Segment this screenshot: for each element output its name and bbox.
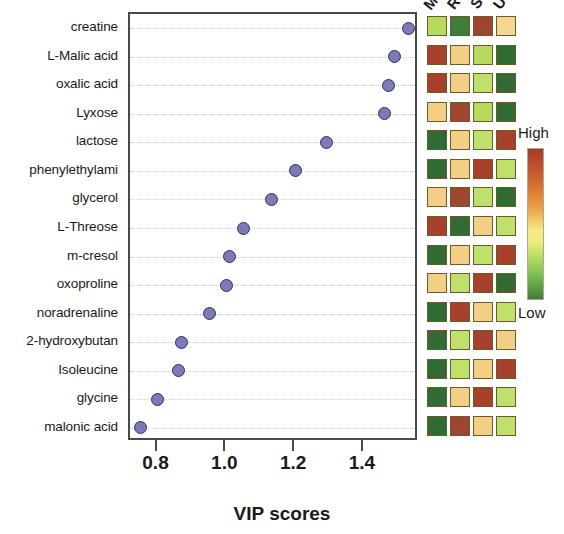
y-axis-tick-label: noradrenaline <box>37 304 118 319</box>
heatmap-cell <box>496 416 516 436</box>
heatmap-cell <box>473 302 493 322</box>
grid-line <box>130 28 415 30</box>
y-axis-tick-label: phenylethylami <box>29 161 118 176</box>
data-point[interactable] <box>378 107 391 120</box>
data-point[interactable] <box>172 364 185 377</box>
heatmap-cell <box>496 16 516 36</box>
y-axis-tick-label: oxoproline <box>57 276 118 291</box>
grid-line <box>130 399 415 401</box>
heatmap-column-header-u: U <box>489 0 509 12</box>
data-point[interactable] <box>175 336 188 349</box>
grid-line <box>130 171 415 173</box>
heatmap-column-header-s: S <box>467 0 487 12</box>
heatmap-cell <box>427 273 447 293</box>
heatmap-cell <box>496 330 516 350</box>
heatmap-panel: MRSU <box>427 12 517 440</box>
heatmap-cell <box>496 102 516 122</box>
data-point[interactable] <box>402 22 415 35</box>
heatmap-cell <box>496 302 516 322</box>
heatmap-cell <box>473 416 493 436</box>
x-axis-tick <box>292 440 294 451</box>
heatmap-cell <box>427 387 447 407</box>
heatmap-cell <box>450 45 470 65</box>
heatmap-cell <box>450 245 470 265</box>
heatmap-cell <box>473 387 493 407</box>
heatmap-cell <box>450 330 470 350</box>
heatmap-cell <box>496 273 516 293</box>
heatmap-cell <box>450 73 470 93</box>
grid-line <box>130 257 415 259</box>
heatmap-cell <box>450 416 470 436</box>
heatmap-cell <box>427 73 447 93</box>
heatmap-cell <box>450 102 470 122</box>
heatmap-cell <box>450 159 470 179</box>
heatmap-cell <box>450 302 470 322</box>
grid-line <box>130 342 415 344</box>
y-axis-tick-label: 2-hydroxybutan <box>26 333 118 348</box>
heatmap-cell <box>427 187 447 207</box>
grid-line <box>130 228 415 230</box>
grid-line <box>130 428 415 430</box>
y-axis-tick-label: malonic acid <box>44 418 118 433</box>
data-point[interactable] <box>237 222 250 235</box>
heatmap-cell <box>473 159 493 179</box>
heatmap-cell <box>496 130 516 150</box>
heatmap-cell <box>496 387 516 407</box>
heatmap-cell <box>496 187 516 207</box>
heatmap-cell <box>496 45 516 65</box>
heatmap-cell <box>473 216 493 236</box>
x-axis-tick <box>223 440 225 451</box>
y-axis-tick-label: glycerol <box>72 190 118 205</box>
heatmap-cell <box>427 359 447 379</box>
data-point[interactable] <box>203 307 216 320</box>
heatmap-cell <box>427 159 447 179</box>
heatmap-cell <box>450 187 470 207</box>
y-axis-tick-label: L-Threose <box>57 219 118 234</box>
heatmap-cell <box>496 245 516 265</box>
y-axis-tick-label: Isoleucine <box>58 361 118 376</box>
grid-line <box>130 285 415 287</box>
heatmap-cell <box>427 45 447 65</box>
data-point[interactable] <box>223 250 236 263</box>
heatmap-cell <box>450 387 470 407</box>
heatmap-cell <box>496 159 516 179</box>
grid-line <box>130 142 415 144</box>
y-axis-tick-label: Lyxose <box>76 104 118 119</box>
heatmap-cell <box>473 130 493 150</box>
y-axis-tick-label: oxalic acid <box>56 76 118 91</box>
heatmap-cell <box>427 102 447 122</box>
heatmap-cell <box>427 416 447 436</box>
heatmap-cell <box>427 16 447 36</box>
y-axis-tick-label: creatine <box>71 19 118 34</box>
heatmap-cell <box>450 273 470 293</box>
data-point[interactable] <box>151 393 164 406</box>
heatmap-cell <box>473 330 493 350</box>
data-point[interactable] <box>388 50 401 63</box>
heatmap-cell <box>450 359 470 379</box>
vip-scores-figure: creatineL-Malic acidoxalic acidLyxoselac… <box>0 0 564 534</box>
data-point[interactable] <box>265 193 278 206</box>
heatmap-cell <box>450 16 470 36</box>
grid-line <box>130 314 415 316</box>
x-axis-tick-label: 1.2 <box>280 452 306 474</box>
data-point[interactable] <box>382 79 395 92</box>
y-axis-tick-label: lactose <box>76 133 118 148</box>
grid-line <box>130 85 415 87</box>
data-point[interactable] <box>289 164 302 177</box>
heatmap-cell <box>496 359 516 379</box>
heatmap-cell <box>496 73 516 93</box>
heatmap-cell <box>473 187 493 207</box>
heatmap-cell <box>473 16 493 36</box>
x-axis-tick <box>361 440 363 451</box>
heatmap-cell <box>473 273 493 293</box>
heatmap-cell <box>450 130 470 150</box>
heatmap-cell <box>427 302 447 322</box>
heatmap-cell <box>473 102 493 122</box>
data-point[interactable] <box>220 279 233 292</box>
data-point[interactable] <box>134 421 147 434</box>
plot-area <box>128 12 417 440</box>
data-point[interactable] <box>320 136 333 149</box>
heatmap-column-header-r: R <box>443 0 463 12</box>
color-legend: High Low <box>518 120 564 330</box>
heatmap-cell <box>427 245 447 265</box>
